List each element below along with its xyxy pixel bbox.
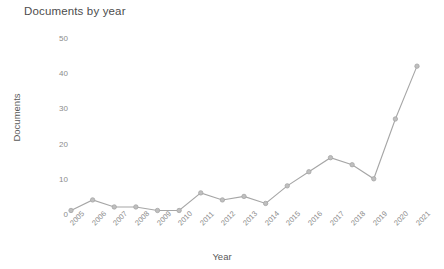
x-axis-tick-2006: 2006: [90, 209, 108, 227]
x-axis-tick-2007: 2007: [111, 209, 129, 227]
x-axis-tick-2015: 2015: [284, 209, 302, 227]
x-axis-tick-2010: 2010: [176, 209, 194, 227]
x-axis-tick-2014: 2014: [263, 209, 281, 227]
x-axis-tick-2008: 2008: [133, 209, 151, 227]
x-axis-tick-2009: 2009: [155, 209, 173, 227]
plot-area: 01020304050 Documents 200520062007200820…: [0, 0, 444, 269]
x-axis-tick-2011: 2011: [198, 210, 216, 228]
x-axis-tick-2005: 2005: [68, 209, 86, 227]
x-axis-tick-2018: 2018: [349, 209, 367, 227]
x-axis-tick-2019: 2019: [371, 209, 389, 227]
x-axis-tick-labels: 2005200620072008200920102011201220132014…: [0, 0, 444, 269]
x-axis-tick-2013: 2013: [241, 209, 259, 227]
x-axis-tick-2012: 2012: [219, 209, 237, 227]
x-axis-tick-2021: 2021: [414, 209, 432, 227]
chart-container: Documents by year 01020304050 Documents …: [0, 0, 444, 269]
x-axis-tick-2016: 2016: [306, 209, 324, 227]
x-axis-tick-2020: 2020: [392, 209, 410, 227]
x-axis-title: Year: [0, 251, 444, 262]
x-axis-tick-2017: 2017: [328, 209, 346, 227]
